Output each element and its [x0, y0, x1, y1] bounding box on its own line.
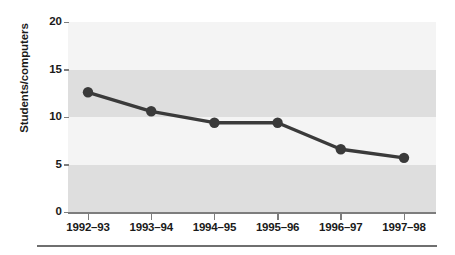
data-point-marker	[336, 144, 346, 154]
data-point-marker	[209, 118, 219, 128]
y-tick-mark	[64, 22, 69, 24]
plot-area	[68, 22, 436, 212]
data-point-marker	[83, 87, 93, 97]
data-point-marker	[399, 153, 409, 163]
y-tick-label: 10	[36, 110, 62, 122]
x-tick-mark	[151, 213, 153, 220]
y-tick-label: 20	[36, 15, 62, 27]
data-point-marker	[146, 106, 156, 116]
y-tick-label: 0	[36, 205, 62, 217]
series-polyline	[88, 92, 404, 158]
data-point-marker	[272, 118, 282, 128]
chart-figure: Students/computers 20 15 10 5 0	[0, 0, 455, 255]
x-tick-mark	[88, 213, 90, 220]
footer-rule	[37, 245, 437, 247]
x-tick-mark	[404, 213, 406, 220]
y-tick-mark	[64, 69, 69, 71]
y-tick-label: 5	[36, 158, 62, 170]
x-tick-mark	[340, 213, 342, 220]
y-tick-mark	[64, 164, 69, 166]
y-tick-label: 15	[36, 63, 62, 75]
x-tick-mark	[214, 213, 216, 220]
x-axis-line	[68, 212, 436, 214]
y-tick-mark	[64, 117, 69, 119]
x-tick-label: 1997–98	[364, 221, 444, 233]
x-tick-mark	[277, 213, 279, 220]
y-tick-mark	[64, 212, 69, 214]
data-series-line	[68, 22, 436, 212]
